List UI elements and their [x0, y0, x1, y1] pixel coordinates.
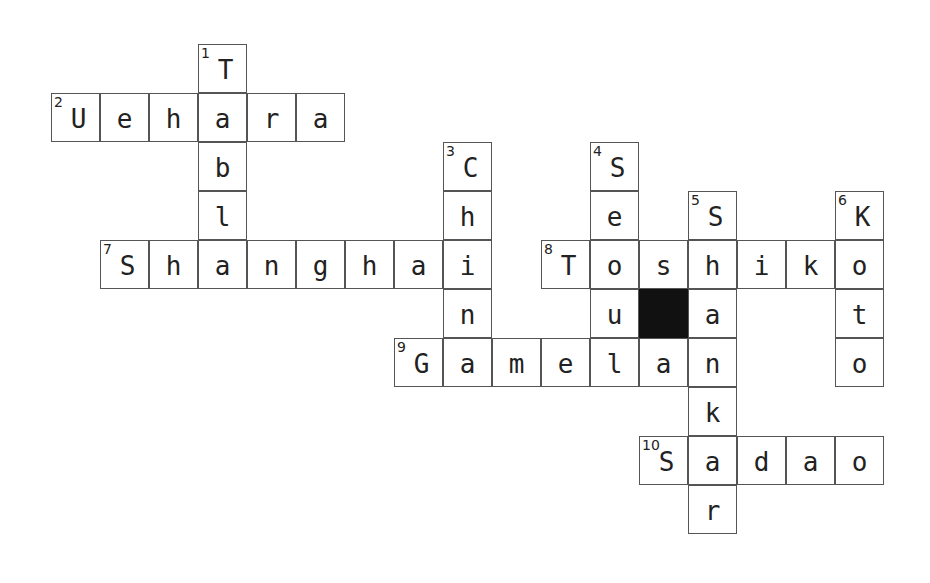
cell-letter: K: [855, 202, 871, 232]
clue-number: 8: [544, 242, 553, 256]
grid-cell[interactable]: g: [296, 240, 345, 289]
grid-cell[interactable]: r: [247, 93, 296, 142]
cell-letter: m: [509, 349, 525, 379]
cell-letter: h: [705, 251, 721, 281]
grid-cell[interactable]: l: [590, 338, 639, 387]
clue-number: 9: [397, 340, 406, 354]
cell-letter: n: [264, 251, 280, 281]
grid-cell[interactable]: a: [688, 289, 737, 338]
grid-cell[interactable]: 3C: [443, 142, 492, 191]
cell-letter: s: [656, 251, 672, 281]
grid-cell[interactable]: n: [247, 240, 296, 289]
grid-cell[interactable]: h: [149, 240, 198, 289]
grid-cell[interactable]: t: [835, 289, 884, 338]
grid-cell[interactable]: 8T: [541, 240, 590, 289]
cell-letter: o: [607, 251, 623, 281]
cell-letter: e: [117, 104, 133, 134]
cell-letter: o: [852, 349, 868, 379]
grid-cell[interactable]: m: [492, 338, 541, 387]
cell-letter: C: [463, 153, 479, 183]
grid-cell[interactable]: u: [590, 289, 639, 338]
grid-cell[interactable]: r: [688, 485, 737, 534]
grid-cell[interactable]: o: [835, 240, 884, 289]
grid-cell[interactable]: 9G: [394, 338, 443, 387]
clue-number: 6: [838, 193, 847, 207]
cell-letter: a: [656, 349, 672, 379]
grid-cell[interactable]: 5S: [688, 191, 737, 240]
cell-letter: t: [852, 300, 868, 330]
grid-cell[interactable]: 2U: [51, 93, 100, 142]
cell-letter: i: [754, 251, 770, 281]
grid-cell[interactable]: h: [443, 191, 492, 240]
grid-cell[interactable]: i: [737, 240, 786, 289]
cell-letter: a: [215, 251, 231, 281]
cell-letter: T: [561, 251, 577, 281]
grid-cell[interactable]: s: [639, 240, 688, 289]
grid-cell[interactable]: o: [835, 436, 884, 485]
grid-cell[interactable]: k: [688, 387, 737, 436]
cell-letter: i: [460, 251, 476, 281]
cell-letter: S: [708, 202, 724, 232]
cell-letter: h: [166, 104, 182, 134]
cell-letter: n: [460, 300, 476, 330]
grid-cell[interactable]: d: [737, 436, 786, 485]
cell-letter: e: [607, 202, 623, 232]
clue-number: 5: [691, 193, 700, 207]
cell-letter: g: [313, 251, 329, 281]
cell-letter: T: [218, 55, 234, 85]
grid-cell[interactable]: 10S: [639, 436, 688, 485]
cell-letter: o: [852, 251, 868, 281]
clue-number: 7: [103, 242, 112, 256]
grid-cell[interactable]: a: [296, 93, 345, 142]
clue-number: 4: [593, 144, 602, 158]
grid-cell[interactable]: h: [688, 240, 737, 289]
grid-cell[interactable]: 7S: [100, 240, 149, 289]
grid-cell[interactable]: a: [688, 436, 737, 485]
cell-letter: S: [120, 251, 136, 281]
clue-number: 3: [446, 144, 455, 158]
cell-letter: e: [558, 349, 574, 379]
grid-cell[interactable]: h: [345, 240, 394, 289]
cell-letter: o: [852, 447, 868, 477]
cell-letter: r: [705, 496, 721, 526]
grid-cell[interactable]: 6K: [835, 191, 884, 240]
grid-cell[interactable]: b: [198, 142, 247, 191]
grid-cell[interactable]: e: [541, 338, 590, 387]
cell-letter: h: [460, 202, 476, 232]
grid-cell[interactable]: o: [835, 338, 884, 387]
grid-cell[interactable]: n: [688, 338, 737, 387]
cell-letter: a: [313, 104, 329, 134]
cell-letter: k: [705, 398, 721, 428]
cell-letter: S: [659, 447, 675, 477]
grid-cell[interactable]: 1T: [198, 44, 247, 93]
grid-cell[interactable]: o: [590, 240, 639, 289]
cell-letter: b: [215, 153, 231, 183]
cell-letter: a: [705, 447, 721, 477]
cell-letter: U: [71, 104, 87, 134]
cell-letter: d: [754, 447, 770, 477]
clue-number: 10: [642, 438, 660, 452]
cell-letter: u: [607, 300, 623, 330]
cell-letter: h: [166, 251, 182, 281]
grid-cell[interactable]: k: [786, 240, 835, 289]
clue-number: 1: [201, 46, 210, 60]
grid-cell[interactable]: n: [443, 289, 492, 338]
grid-cell[interactable]: e: [100, 93, 149, 142]
grid-cell[interactable]: i: [443, 240, 492, 289]
cell-letter: l: [215, 202, 231, 232]
grid-cell[interactable]: a: [786, 436, 835, 485]
grid-cell[interactable]: e: [590, 191, 639, 240]
cell-letter: r: [264, 104, 280, 134]
grid-cell[interactable]: a: [394, 240, 443, 289]
grid-cell[interactable]: a: [198, 93, 247, 142]
grid-cell[interactable]: a: [639, 338, 688, 387]
cell-letter: a: [411, 251, 427, 281]
cell-letter: a: [803, 447, 819, 477]
grid-cell[interactable]: l: [198, 191, 247, 240]
grid-cell[interactable]: a: [443, 338, 492, 387]
grid-cell[interactable]: a: [198, 240, 247, 289]
cell-letter: a: [215, 104, 231, 134]
grid-cell[interactable]: 4S: [590, 142, 639, 191]
grid-cell[interactable]: h: [149, 93, 198, 142]
cell-letter: n: [705, 349, 721, 379]
